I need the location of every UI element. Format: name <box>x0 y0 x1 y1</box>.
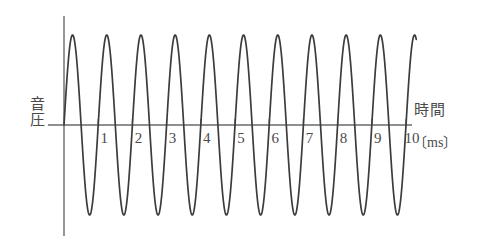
x-tick-label-8: 8 <box>335 130 353 147</box>
x-tick-label-4: 4 <box>198 130 216 147</box>
x-tick-label-3: 3 <box>164 130 182 147</box>
x-axis-label: 時間 <box>414 98 446 119</box>
waveform-figure: 音圧 時間 〔ms〕 12345678910 <box>0 0 484 245</box>
x-tick-label-6: 6 <box>266 130 284 147</box>
x-tick-label-1: 1 <box>95 130 113 147</box>
x-tick-label-7: 7 <box>300 130 318 147</box>
x-tick-label-2: 2 <box>129 130 147 147</box>
x-tick-label-5: 5 <box>232 130 250 147</box>
x-tick-label-9: 9 <box>369 130 387 147</box>
waveform-plot <box>0 0 484 245</box>
y-axis-label: 音圧 <box>22 96 44 128</box>
x-tick-label-10: 10 <box>403 130 421 147</box>
